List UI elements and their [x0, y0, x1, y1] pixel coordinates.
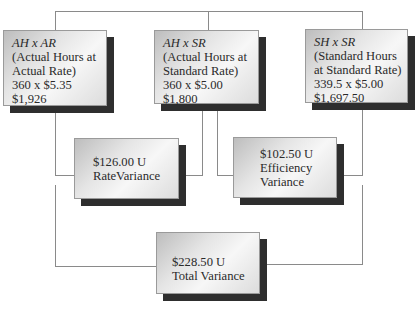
top-connector-left — [55, 11, 56, 31]
standard-cost-box: SH x SR (Standard Hours at Standard Rate… — [305, 29, 408, 103]
rate-variance-amount: $126.00 U — [93, 155, 160, 169]
rate-variance-label: RateVariance — [93, 169, 160, 183]
total-bracket-right — [362, 185, 363, 265]
calculation: 360 x $5.00 — [163, 78, 247, 92]
description-line2: at Standard Rate) — [314, 63, 401, 77]
total-bracket-right-h — [266, 264, 362, 265]
description-line1: (Actual Hours at — [163, 50, 247, 64]
top-connector-mid — [208, 11, 209, 31]
total-variance-amount: $228.50 U — [172, 255, 245, 269]
description-line2: Actual Rate) — [12, 64, 96, 78]
result: $1,697.50 — [314, 91, 401, 105]
top-connector-right — [362, 11, 363, 30]
eff-bracket-right-h — [343, 175, 362, 176]
rate-bracket-right — [202, 110, 203, 176]
description-line2: Standard Rate) — [163, 64, 247, 78]
result: $1,926 — [12, 92, 96, 106]
rate-variance-box: $126.00 U RateVariance — [74, 138, 179, 199]
rate-bracket-right-h — [185, 175, 202, 176]
efficiency-variance-box: $102.50 U Efficiency Variance — [233, 137, 337, 198]
efficiency-variance-label1: Efficiency — [260, 161, 313, 175]
eff-bracket-right — [362, 110, 363, 176]
eff-bracket-left — [217, 110, 218, 176]
calculation: 339.5 x $5.00 — [314, 77, 401, 91]
description-line1: (Standard Hours — [314, 49, 401, 63]
actual-cost-box: AH x AR (Actual Hours at Actual Rate) 36… — [3, 30, 107, 106]
formula: AH x SR — [163, 36, 247, 50]
efficiency-variance-label2: Variance — [260, 175, 313, 189]
total-variance-label: Total Variance — [172, 269, 245, 283]
rate-bracket-left — [55, 112, 56, 176]
total-bracket-left-h — [55, 266, 156, 267]
eff-bracket-left-h — [217, 175, 233, 176]
total-bracket-left — [55, 185, 56, 267]
top-connector — [55, 11, 363, 12]
description-line1: (Actual Hours at — [12, 50, 96, 64]
efficiency-variance-amount: $102.50 U — [260, 147, 313, 161]
total-variance-box: $228.50 U Total Variance — [156, 232, 260, 294]
formula: AH x AR — [12, 36, 96, 50]
calculation: 360 x $5.35 — [12, 78, 96, 92]
formula: SH x SR — [314, 35, 401, 49]
rate-bracket-left-h — [55, 175, 74, 176]
actual-hours-standard-rate-box: AH x SR (Actual Hours at Standard Rate) … — [154, 30, 259, 104]
result: $1,800 — [163, 92, 247, 106]
